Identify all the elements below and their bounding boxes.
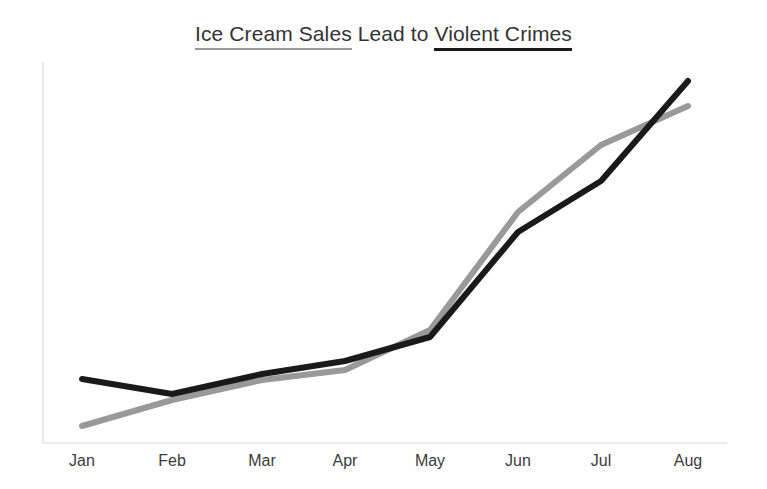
- x-tick-label-may: May: [415, 452, 445, 470]
- series-line-violent-crimes: [82, 81, 688, 394]
- x-tick-label-jun: Jun: [505, 452, 531, 470]
- x-tick-label-mar: Mar: [248, 452, 276, 470]
- x-tick-label-apr: Apr: [333, 452, 358, 470]
- x-tick-label-jul: Jul: [591, 452, 611, 470]
- x-tick-label-jan: Jan: [69, 452, 95, 470]
- x-tick-label-feb: Feb: [158, 452, 186, 470]
- plot-area: [0, 0, 767, 489]
- series-line-ice-cream-sales: [82, 106, 688, 426]
- chart-container: Ice Cream Sales Lead to Violent Crimes J…: [0, 0, 767, 489]
- x-tick-label-aug: Aug: [674, 452, 702, 470]
